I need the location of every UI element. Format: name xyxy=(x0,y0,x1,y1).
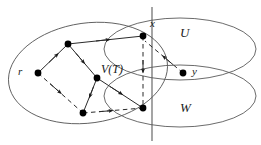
vertex-w1 xyxy=(140,105,147,112)
label-region-w: W xyxy=(180,101,191,114)
edge-y-x-arrow xyxy=(164,57,173,65)
vertex-x xyxy=(140,33,147,40)
vertex-a xyxy=(65,41,72,48)
vertex-y xyxy=(180,70,187,77)
edge-r-d-line xyxy=(38,73,83,113)
vt-ellipse-shape xyxy=(2,12,174,133)
edge-d-w1-arrow xyxy=(99,111,111,112)
label-y: y xyxy=(192,66,197,77)
edge-r-d-arrow xyxy=(50,84,60,93)
tree-edges xyxy=(38,36,143,113)
label-region-u: U xyxy=(180,26,189,39)
figure-canvas: r x y U W V(T) xyxy=(0,0,261,145)
vertex-r xyxy=(35,70,42,77)
label-vt: V(T) xyxy=(101,63,123,75)
vertex-d xyxy=(80,110,87,117)
label-x: x xyxy=(150,18,155,29)
edge-c-w1-arrow xyxy=(110,87,121,94)
edge-c-d-arrow xyxy=(90,87,94,96)
edge-a-c-arrow xyxy=(76,53,84,62)
label-r: r xyxy=(18,66,22,77)
edge-r-a-arrow xyxy=(49,55,57,63)
vertex-c xyxy=(94,75,101,82)
diagram-svg xyxy=(0,0,261,145)
